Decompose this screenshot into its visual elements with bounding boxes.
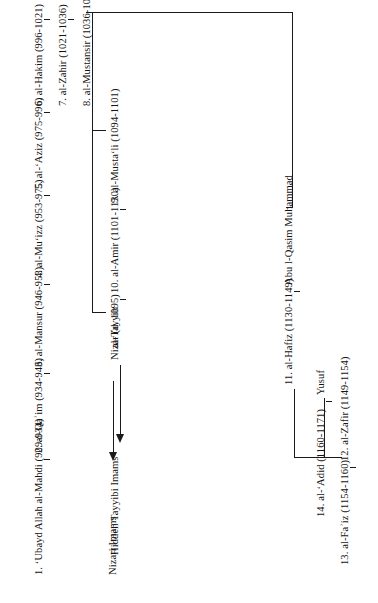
connector-tick-3-4 bbox=[44, 284, 50, 285]
imam-node-12-zafir: 12. al-Zafir (1149-1154) bbox=[340, 356, 351, 461]
imam-node-8: 8. al-Mustansir (1036-1094) bbox=[82, 0, 93, 106]
imam-node-11-hafiz: 11. al-Hafiz (1130-1149) bbox=[284, 279, 295, 386]
imam-node-4: 4. al-Muʻizz (953-975) bbox=[34, 179, 45, 278]
rotated-chart-wrapper: 1. ʻUbayd Allah al-Mahdi (909-934) 2. al… bbox=[0, 0, 378, 603]
hafiz-fork-stem bbox=[294, 389, 295, 390]
connector-tick-7-8 bbox=[68, 19, 74, 20]
connector-tick-10-tayyib bbox=[120, 299, 126, 300]
zafir-connector bbox=[324, 457, 342, 458]
connector-tick-9-10 bbox=[120, 209, 126, 210]
hafiz-fork-bar bbox=[294, 390, 295, 458]
connector-tick-yusuf-adid bbox=[326, 401, 332, 402]
imam-node-10-amir: 10. al-Amir (1101-1130) bbox=[110, 187, 121, 293]
fork-stem-nizar bbox=[92, 312, 106, 313]
nizari-arrow-line bbox=[113, 381, 114, 453]
connector-tick-2-3 bbox=[44, 373, 50, 374]
imam-node-tayyib: al-Tayyib bbox=[110, 307, 121, 348]
imam-node-14-adid: 14. al-ʻAdid (1160-1171) bbox=[316, 409, 327, 517]
imam-node-13-faiz: 13. al-Faʾiz (1154-1160) bbox=[340, 460, 351, 565]
fork-stem-mustali bbox=[92, 130, 106, 131]
connector-tick-5-6 bbox=[44, 112, 50, 113]
connector-tick-6-7 bbox=[44, 19, 50, 20]
tayyibi-arrow-head bbox=[116, 434, 124, 443]
fork-bar-mustansir bbox=[92, 13, 93, 313]
imam-node-2: 2. al-Qaʾim (934-946) bbox=[34, 358, 45, 453]
tayyibi-imams-terminal: Hidden Tayyibi Imams bbox=[110, 457, 121, 555]
connector-tick-1-2 bbox=[44, 459, 50, 460]
imam-node-9-mustali: 9. al-Mustaʻli (1094-1101) bbox=[110, 89, 121, 203]
connector-tick-4-5 bbox=[44, 195, 50, 196]
genealogy-canvas: 1. ʻUbayd Allah al-Mahdi (909-934) 2. al… bbox=[0, 0, 378, 603]
yusuf-node: Yusuf bbox=[316, 370, 327, 395]
imam-node-5: 5. al-ʻAziz (975-996) bbox=[34, 97, 45, 189]
imam-node-6: 6. al-Hakim (996-1021) bbox=[34, 4, 45, 106]
imam-node-7: 7. al-Zahir (1021-1036) bbox=[58, 4, 69, 106]
imam-node-3: 3. al-Mansur (946-953) bbox=[34, 267, 45, 367]
abu-l-qasim-node: Abu l-Qasim Muhammad bbox=[284, 175, 295, 285]
tayyibi-arrow-line bbox=[120, 365, 121, 435]
hafizi-descent-spine bbox=[92, 12, 292, 13]
connector-tick-abulqasim-hafiz bbox=[294, 291, 300, 292]
connector-tick-12-13 bbox=[350, 467, 356, 468]
